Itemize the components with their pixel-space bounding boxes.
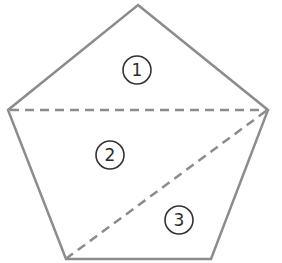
svg-text:3: 3 (174, 210, 185, 230)
svg-text:2: 2 (105, 145, 116, 165)
region-label-2: 2 (96, 141, 124, 169)
region-label-1: 1 (123, 56, 151, 84)
pentagon-outline (8, 5, 268, 259)
pentagon-diagram: 1 2 3 (0, 0, 282, 263)
svg-text:1: 1 (132, 60, 143, 80)
dashed-diagonal-slanted (67, 111, 266, 258)
region-label-3: 3 (165, 206, 193, 234)
